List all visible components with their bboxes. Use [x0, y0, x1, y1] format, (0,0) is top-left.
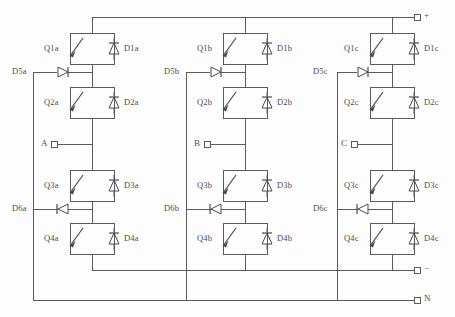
label-d3c: D3c	[424, 181, 439, 190]
ac-terminal-a	[51, 118, 92, 170]
label-q4a: Q4a	[44, 234, 59, 243]
schematic-canvas: Q1a Q2a Q3a Q4a D1a D2a D3a D4a D5a D6a …	[0, 0, 455, 317]
cell-q2b-d2b	[223, 87, 272, 118]
cell-q2c-d2c	[370, 87, 419, 118]
label-terminal-c: C	[341, 139, 347, 148]
cell-q4b-d4b	[223, 223, 272, 254]
label-terminal-a: A	[41, 139, 48, 148]
label-d1c: D1c	[424, 44, 439, 53]
label-d6b: D6b	[164, 204, 179, 213]
clamp-diode-d5b	[186, 67, 245, 77]
cell-q3a-d3a	[70, 170, 119, 201]
cell-q3c-d3c	[370, 170, 419, 201]
label-q2c: Q2c	[344, 98, 359, 107]
label-d2b: D2b	[277, 98, 292, 107]
label-q2b: Q2b	[197, 98, 212, 107]
clamp-diode-d5c	[337, 67, 392, 77]
label-q2a: Q2a	[44, 98, 59, 107]
clamp-diode-d5a	[33, 67, 92, 77]
label-d6a: D6a	[12, 204, 27, 213]
label-d2a: D2a	[124, 98, 139, 107]
cell-q2a-d2a	[70, 87, 119, 118]
label-q4b: Q4b	[197, 234, 212, 243]
label-q3b: Q3b	[197, 181, 212, 190]
label-q1b: Q1b	[197, 44, 212, 53]
label-q1a: Q1a	[44, 44, 59, 53]
label-q4c: Q4c	[344, 234, 359, 243]
label-terminal-b: B	[194, 139, 200, 148]
cell-q4c-d4c	[370, 223, 419, 254]
circuit-svg	[0, 0, 455, 317]
label-d4c: D4c	[424, 234, 439, 243]
label-d2c: D2c	[424, 98, 439, 107]
label-d5b: D5b	[164, 67, 179, 76]
label-d5c: D5c	[313, 67, 328, 76]
label-d1b: D1b	[277, 44, 292, 53]
cell-q1a-d1a	[70, 33, 119, 64]
clamp-diode-d6b	[186, 204, 245, 214]
label-q3c: Q3c	[344, 181, 359, 190]
clamp-diode-d6a	[33, 204, 92, 214]
cell-q3b-d3b	[223, 170, 272, 201]
phase-c-leg	[337, 33, 419, 254]
label-d4b: D4b	[277, 234, 292, 243]
dc-negative-rail	[92, 254, 420, 273]
label-dc-neutral: N	[424, 294, 431, 303]
ac-terminal-c	[351, 118, 392, 170]
cell-q1b-d1b	[223, 33, 272, 64]
label-d3a: D3a	[124, 181, 139, 190]
label-q3a: Q3a	[44, 181, 59, 190]
ac-terminal-b	[204, 118, 245, 170]
label-d1a: D1a	[124, 44, 139, 53]
label-d5a: D5a	[12, 67, 27, 76]
label-d6c: D6c	[313, 204, 328, 213]
cell-q4a-d4a	[70, 223, 119, 254]
label-q1c: Q1c	[344, 44, 359, 53]
label-d4a: D4a	[124, 234, 139, 243]
label-dc-negative: −	[424, 264, 429, 273]
cell-q1c-d1c	[370, 33, 419, 64]
dc-positive-rail	[92, 14, 420, 33]
label-d3b: D3b	[277, 181, 292, 190]
label-dc-positive: +	[424, 11, 429, 20]
clamp-diode-d6c	[337, 204, 392, 214]
